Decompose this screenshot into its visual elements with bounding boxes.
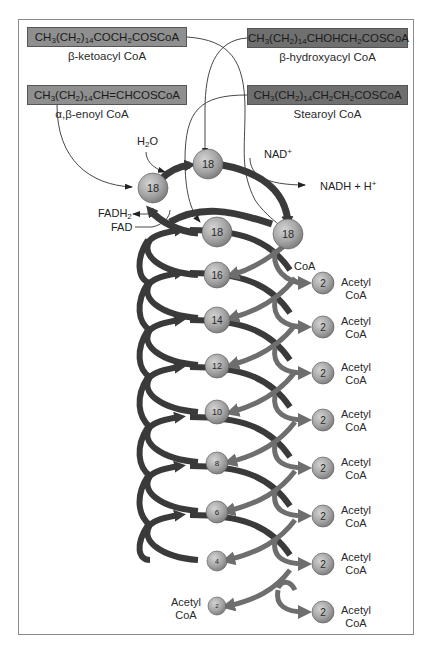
- acetyl-coa-label: AcetylCoA: [336, 456, 376, 482]
- svg-text:2: 2: [320, 278, 326, 289]
- acetyl-coa-label: AcetylCoA: [336, 408, 376, 434]
- ketoacyl-node: 18: [273, 219, 303, 249]
- acetyl-coa-label: AcetylCoA: [336, 361, 376, 387]
- node-label: 18: [211, 226, 223, 238]
- chain-node-4: 4: [207, 551, 227, 571]
- h2o-label: H2O: [137, 135, 158, 147]
- thiolysis-arrows: [228, 245, 305, 612]
- svg-text:14: 14: [211, 315, 223, 326]
- node-label: 18: [282, 228, 294, 240]
- nadh-label: NADH + H+: [320, 180, 376, 192]
- svg-text:8: 8: [215, 459, 220, 468]
- svg-text:2: 2: [320, 559, 326, 570]
- svg-text:2: 2: [320, 607, 326, 618]
- chain-node-10: 10: [205, 400, 229, 424]
- svg-text:2: 2: [320, 368, 326, 379]
- svg-text:6: 6: [215, 508, 220, 517]
- chain-node-6: 6: [206, 501, 228, 523]
- svg-text:16: 16: [211, 270, 223, 281]
- acetyl-coa-label: AcetylCoA: [336, 604, 376, 630]
- chain-node-12: 12: [205, 354, 229, 378]
- acetyl-coa-label: AcetylCoA: [336, 315, 376, 341]
- chain-node-8: 8: [206, 452, 228, 474]
- final-acetyl-node: 2: [208, 597, 226, 615]
- connector-lines: [57, 37, 305, 232]
- svg-text:12: 12: [212, 361, 222, 371]
- acetyl-coa-label: AcetylCoA: [336, 504, 376, 530]
- chain-nodes: 16 14 12 10 8 6 4 2: [204, 262, 230, 615]
- node-label: 18: [202, 158, 214, 170]
- svg-text:2: 2: [320, 415, 326, 426]
- enoyl-node: 18: [138, 173, 168, 203]
- acetyl-coa-label: AcetylCoA: [336, 276, 376, 302]
- node-label: 18: [147, 182, 159, 194]
- acetyl-product-nodes: 2 2 2 2 2 2 2 2: [312, 272, 334, 623]
- nad-label: NAD+: [264, 148, 292, 160]
- hydroxyacyl-node: 18: [193, 149, 223, 179]
- svg-text:4: 4: [215, 558, 219, 565]
- svg-text:2: 2: [320, 463, 326, 474]
- svg-text:2: 2: [320, 511, 326, 522]
- svg-text:2: 2: [320, 322, 326, 333]
- coa-label: CoA: [294, 260, 315, 272]
- fad-label: FAD: [111, 221, 132, 233]
- chain-node-14: 14: [204, 307, 230, 333]
- chain-node-16: 16: [204, 262, 230, 288]
- acetyl-coa-label: AcetylCoA: [336, 551, 376, 577]
- svg-text:10: 10: [212, 407, 222, 417]
- final-acetyl-coa-label: AcetylCoA: [166, 596, 206, 622]
- fadh2-label: FADH2: [98, 207, 132, 219]
- stearoyl-node: 18: [202, 217, 232, 247]
